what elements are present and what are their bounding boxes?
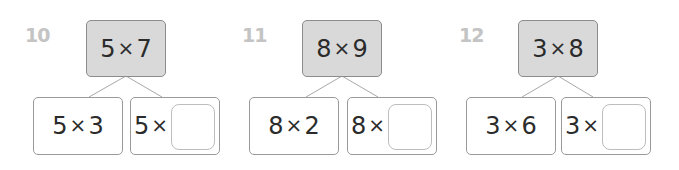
times-sign: × (286, 113, 303, 137)
part-right-box: 3× (561, 97, 651, 155)
answer-blank[interactable] (602, 104, 646, 150)
factor-a: 5 (134, 112, 149, 140)
times-sign: × (151, 113, 168, 137)
factor-b: 3 (88, 112, 103, 140)
factor-b: 8 (568, 35, 583, 63)
factor-a: 8 (316, 35, 331, 63)
factor-a: 8 (268, 112, 283, 140)
answer-blank[interactable] (388, 104, 432, 150)
times-sign: × (368, 113, 385, 137)
times-sign: × (550, 36, 567, 60)
factor-a: 5 (100, 35, 115, 63)
part-left-box: 3×6 (466, 97, 556, 155)
problem-number: 12 (459, 24, 483, 46)
factor-a: 5 (52, 112, 67, 140)
times-sign: × (582, 113, 599, 137)
whole-product-box: 3×8 (518, 20, 598, 77)
factor-b: 6 (521, 112, 536, 140)
part-left-box: 5×3 (33, 97, 123, 155)
times-sign: × (118, 36, 135, 60)
factor-b: 7 (136, 35, 151, 63)
answer-blank[interactable] (171, 104, 215, 150)
factor-a: 3 (532, 35, 547, 63)
whole-product-box: 8×9 (302, 20, 382, 77)
factor-a: 3 (565, 112, 580, 140)
part-right-box: 8× (347, 97, 437, 155)
problem-number: 10 (25, 24, 49, 46)
part-left-box: 8×2 (249, 97, 339, 155)
times-sign: × (503, 113, 520, 137)
times-sign: × (70, 113, 87, 137)
times-sign: × (334, 36, 351, 60)
factor-a: 3 (485, 112, 500, 140)
whole-product-box: 5×7 (86, 20, 166, 77)
part-right-box: 5× (130, 97, 220, 155)
problem-number: 11 (242, 24, 266, 46)
factor-a: 8 (351, 112, 366, 140)
factor-b: 9 (352, 35, 367, 63)
factor-b: 2 (304, 112, 319, 140)
